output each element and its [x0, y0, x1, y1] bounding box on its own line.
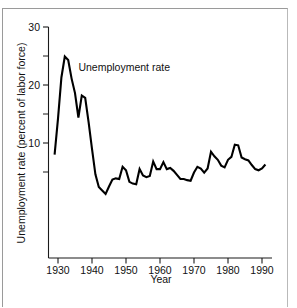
- y-axis-title: Unemployment rate (percent of labor forc…: [15, 43, 27, 244]
- y-axis-tick-labels: 102030: [28, 21, 40, 149]
- x-tick-label: 1950: [114, 264, 138, 276]
- y-tick-label: 20: [28, 79, 40, 91]
- x-axis-title: Year: [150, 273, 172, 285]
- series-annotation-label: Unemployment rate: [78, 61, 170, 73]
- series-unemployment-rate: [55, 57, 266, 194]
- page-footer-ghost-text: [8, 302, 248, 308]
- x-tick-label: 1970: [182, 264, 206, 276]
- y-axis-ticks: [43, 27, 49, 172]
- unemployment-line-chart: 102030 1930194019501960197019801990 Unem…: [0, 0, 297, 308]
- x-tick-label: 1930: [46, 264, 70, 276]
- x-tick-label: 1980: [216, 264, 240, 276]
- x-axis-ticks: [58, 258, 262, 264]
- y-tick-label: 10: [28, 137, 40, 149]
- y-tick-label: 30: [28, 21, 40, 33]
- chart-plot-area: 102030 1930194019501960197019801990 Unem…: [0, 0, 297, 308]
- x-tick-label: 1990: [250, 264, 274, 276]
- x-tick-label: 1940: [80, 264, 104, 276]
- figure-container: 102030 1930194019501960197019801990 Unem…: [0, 0, 297, 308]
